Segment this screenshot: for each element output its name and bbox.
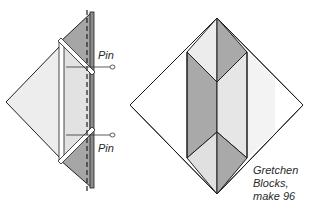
right-side-panel	[247, 52, 275, 158]
caption-line-3: make 96	[253, 190, 296, 202]
pin-label-top: Pin	[98, 49, 114, 61]
caption-line-2: Blocks,	[253, 177, 288, 189]
right-dark-strip	[90, 12, 94, 188]
finished-block-diagram: Gretchen Blocks, make 96	[130, 18, 303, 202]
left-assembly-diagram: Pin Pin	[6, 10, 115, 192]
gretchen-block-diagram: Pin Pin Gretchen Blocks, make 96	[0, 0, 313, 212]
vertical-white-strip	[59, 42, 64, 160]
pin-label-bottom: Pin	[98, 142, 114, 154]
caption-line-1: Gretchen	[253, 164, 298, 176]
light-triangle	[6, 44, 62, 160]
